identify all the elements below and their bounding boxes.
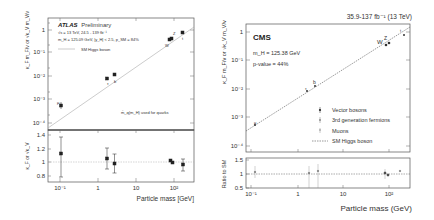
- atlas-rtick-4: 0.8: [37, 173, 46, 179]
- atlas-title: ATLAS Preliminary: [57, 22, 111, 28]
- svg-text:τ: τ: [107, 81, 109, 86]
- atlas-energy-lumi: √s = 13 TeV, 24.5 - 139 fb⁻¹: [58, 30, 107, 35]
- atlas-point-z: [170, 37, 173, 40]
- cms-point-t: [403, 34, 405, 36]
- cms-sm-line: [246, 27, 410, 131]
- cms-point-z: [388, 42, 391, 45]
- cms-ytick-4: 10⁻³: [231, 114, 243, 120]
- cms-legend-sm: SM Higgs boson: [332, 138, 372, 144]
- atlas-rtick-1: 1.4: [37, 132, 46, 138]
- atlas-x-ticks: [60, 18, 174, 182]
- cms-ratio-y-label: Ratio to SM: [221, 159, 227, 188]
- cms-point-w: [385, 44, 388, 47]
- svg-text:t: t: [182, 36, 184, 41]
- atlas-legend-sm: SM Higgs boson: [81, 47, 110, 52]
- svg-text:W: W: [165, 43, 169, 48]
- cms-xtick-1: 10⁻¹: [245, 191, 257, 197]
- svg-text:W: W: [377, 39, 383, 45]
- atlas-plot: 1 10⁻¹ 10⁻² 10⁻³ 10⁻⁴ 1.4 1.2 1 0.8 10⁻¹…: [0, 0, 217, 220]
- cms-x-label: Particle mass (GeV): [340, 204, 412, 213]
- atlas-xtick-2: 1: [96, 185, 100, 191]
- cms-legend-vector: Vector bosons: [332, 107, 367, 113]
- atlas-ytick-1: 1: [42, 27, 46, 33]
- cms-title: CMS: [253, 33, 271, 42]
- cms-ytick-1: 1: [240, 29, 244, 35]
- cms-point-b: [314, 85, 316, 87]
- cms-legend-fermion-marker: [319, 119, 321, 121]
- atlas-ratio-y-label: κ_F or √κ_V: [24, 142, 30, 170]
- cms-ytick-3: 10⁻²: [231, 86, 243, 92]
- atlas-ytick-3: 10⁻²: [33, 73, 45, 79]
- atlas-xtick-1: 10⁻¹: [54, 185, 66, 191]
- cms-y-label: κ_F m_F/v or √κ_V m_V/v: [221, 20, 227, 84]
- atlas-quark-note: m̄_q(m_H) used for quarks: [121, 110, 169, 115]
- cms-legend-fermions: 3rd generation fermions: [332, 117, 390, 123]
- atlas-ratio-points: [59, 137, 185, 177]
- atlas-point-tau: [106, 77, 109, 80]
- cms-xtick-2: 1: [296, 191, 300, 197]
- cms-rtick-3: 0.5: [235, 185, 244, 191]
- cms-chart: 35.9-137 fb⁻¹ (13 TeV) 1 10⁻¹ 10⁻² 10⁻³ …: [217, 0, 434, 220]
- atlas-x-label: Particle mass [GeV]: [137, 195, 195, 203]
- cms-ytick-2: 10⁻¹: [231, 57, 243, 63]
- atlas-point-mu: [60, 104, 63, 107]
- atlas-y-label: κ_F m_F/v or √κ_V m_V/v: [24, 11, 30, 69]
- cms-ratio-points: [254, 164, 401, 188]
- atlas-xtick-3: 10: [133, 185, 140, 191]
- cms-rtick-2: 1: [240, 171, 244, 177]
- atlas-point-t: [181, 31, 184, 34]
- cms-xtick-4: 10²: [385, 191, 394, 197]
- cms-xtick-3: 10: [340, 191, 347, 197]
- atlas-ytick-2: 10⁻¹: [33, 49, 45, 55]
- svg-text:Z: Z: [173, 31, 176, 36]
- atlas-point-b: [113, 73, 116, 76]
- cms-pvalue: p-value = 44%: [253, 61, 288, 67]
- atlas-rtick-3: 1: [42, 159, 46, 165]
- cms-main-frame: [246, 24, 410, 152]
- atlas-ytick-5: 10⁻⁴: [33, 120, 46, 126]
- cms-legend-vector-marker: [319, 109, 321, 111]
- cms-legend-muon-marker: [319, 129, 320, 130]
- cms-legend: Vector bosons 3rd generation fermions Mu…: [312, 107, 390, 144]
- atlas-chart: 1 10⁻¹ 10⁻² 10⁻³ 10⁻⁴ 1.4 1.2 1 0.8 10⁻¹…: [0, 0, 217, 220]
- cms-rtick-1: 1.5: [235, 157, 244, 163]
- cms-x-ticks: [251, 149, 389, 188]
- svg-text:b: b: [114, 79, 117, 84]
- atlas-mass-info: m_H = 125.09 GeV, |y_H| < 2.5, p_SM = 84…: [58, 37, 139, 42]
- cms-plot: 35.9-137 fb⁻¹ (13 TeV) 1 10⁻¹ 10⁻² 10⁻³ …: [217, 0, 434, 220]
- cms-points: [254, 34, 405, 126]
- svg-text:b: b: [313, 79, 316, 85]
- cms-ytick-5: 10⁻⁴: [231, 143, 244, 149]
- cms-lumi-label: 35.9-137 fb⁻¹ (13 TeV): [347, 13, 412, 21]
- atlas-rtick-2: 1.2: [37, 146, 46, 152]
- svg-text:Z: Z: [384, 35, 387, 41]
- atlas-ratio-frame: [48, 130, 194, 182]
- cms-mh: m_H = 125.38 GeV: [253, 50, 301, 56]
- cms-legend-muons: Muons: [332, 128, 349, 134]
- atlas-xtick-4: 10²: [170, 185, 179, 191]
- atlas-ytick-4: 10⁻³: [33, 96, 45, 102]
- svg-text:t: t: [400, 28, 402, 33]
